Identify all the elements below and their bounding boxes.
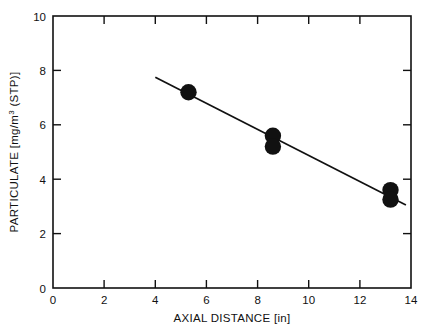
y-tick-labels: 10 8 6 4 2 0 bbox=[33, 11, 46, 295]
y-tick-label-4: 4 bbox=[40, 174, 47, 186]
y-axis-title-main: PARTICULATE [mg/m bbox=[8, 115, 20, 233]
data-point bbox=[180, 84, 196, 100]
x-tick-label-0: 0 bbox=[50, 294, 56, 306]
chart-figure: 10 8 6 4 2 0 0 2 4 6 8 10 12 14 AXIAL DI… bbox=[0, 0, 428, 329]
scatter-plot-svg: 10 8 6 4 2 0 0 2 4 6 8 10 12 14 AXIAL DI… bbox=[0, 0, 428, 329]
x-tick-label-8: 8 bbox=[254, 294, 260, 306]
x-tick-label-2: 2 bbox=[101, 294, 107, 306]
x-tick-label-10: 10 bbox=[302, 294, 315, 306]
x-tick-label-4: 4 bbox=[152, 294, 159, 306]
x-tick-label-6: 6 bbox=[203, 294, 209, 306]
data-point bbox=[382, 191, 398, 207]
y-axis-title-tail: (STP)] bbox=[8, 72, 20, 111]
y-axis-title: PARTICULATE [mg/m3 (STP)] bbox=[7, 72, 20, 233]
x-tick-label-14: 14 bbox=[405, 294, 418, 306]
x-axis-title: AXIAL DISTANCE [in] bbox=[174, 312, 291, 324]
y-tick-label-10: 10 bbox=[33, 11, 46, 23]
y-tick-label-2: 2 bbox=[40, 228, 46, 240]
plot-area-background bbox=[53, 16, 411, 288]
x-tick-label-12: 12 bbox=[354, 294, 367, 306]
x-tick-labels: 0 2 4 6 8 10 12 14 bbox=[50, 294, 418, 306]
data-point bbox=[265, 138, 281, 154]
y-tick-label-8: 8 bbox=[40, 65, 46, 77]
y-tick-label-0: 0 bbox=[40, 283, 46, 295]
svg-text:PARTICULATE [mg/m3 (STP)]: PARTICULATE [mg/m3 (STP)] bbox=[7, 72, 20, 233]
y-tick-label-6: 6 bbox=[40, 119, 46, 131]
